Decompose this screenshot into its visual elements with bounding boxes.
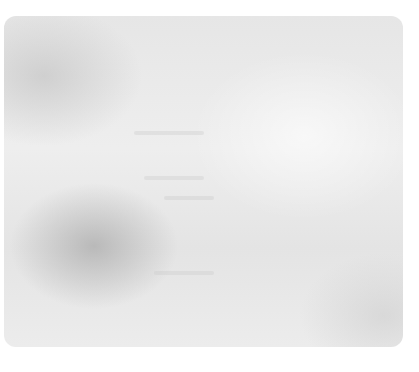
faint-placeholder-line <box>144 176 204 180</box>
faint-placeholder-line <box>154 271 214 275</box>
blank-panel <box>4 16 403 347</box>
faint-placeholder-line <box>134 131 204 135</box>
faint-placeholder-line <box>164 196 214 200</box>
